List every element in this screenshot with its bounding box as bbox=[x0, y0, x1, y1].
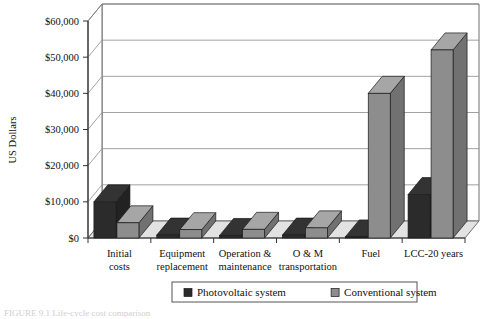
legend-label-1: Conventional system bbox=[344, 286, 437, 298]
figure-caption-partial: FIGURE 9.1 Life-cycle cost comparison bbox=[4, 309, 174, 317]
bar-front-face bbox=[180, 230, 202, 238]
bar-front-face bbox=[305, 228, 327, 238]
bar-front-face bbox=[157, 235, 179, 238]
bar-front-face bbox=[431, 50, 453, 238]
y-tick-label: $20,000 bbox=[45, 160, 79, 171]
bar-front-face bbox=[345, 237, 367, 238]
bar-front-face bbox=[94, 202, 116, 238]
bar-front-face bbox=[220, 235, 242, 238]
bar-conventional-4 bbox=[368, 76, 404, 238]
x-category-label-3: O & M bbox=[293, 248, 324, 259]
x-category-label-1: Equipment bbox=[159, 248, 205, 259]
bar-front-face bbox=[243, 229, 265, 238]
x-category-label-2-0: costs bbox=[109, 261, 130, 272]
y-tick-label: $0 bbox=[69, 233, 80, 244]
bar-side-face bbox=[453, 33, 467, 238]
y-tick-label: $30,000 bbox=[45, 124, 79, 135]
y-tick-label: $60,000 bbox=[45, 16, 79, 27]
bar-conventional-5 bbox=[431, 33, 467, 238]
chart-canvas: $0$10,000$20,000$30,000$40,000$50,000$60… bbox=[0, 0, 496, 319]
bar-front-face bbox=[368, 93, 390, 238]
x-category-label-2-3: transportation bbox=[279, 261, 338, 272]
y-tick-label: $40,000 bbox=[45, 88, 79, 99]
legend-swatch-1 bbox=[331, 289, 339, 297]
x-category-label-2-2: maintenance bbox=[219, 261, 272, 272]
x-category-label-5: LCC-20 years bbox=[404, 248, 463, 259]
x-category-label-4: Fuel bbox=[361, 248, 380, 259]
bar-front-face bbox=[408, 195, 430, 238]
legend-swatch-0 bbox=[184, 289, 192, 297]
bar-chart: $0$10,000$20,000$30,000$40,000$50,000$60… bbox=[0, 0, 496, 319]
y-tick-label: $10,000 bbox=[45, 196, 79, 207]
y-tick-label: $50,000 bbox=[45, 52, 79, 63]
x-category-label-2-1: replacement bbox=[157, 261, 208, 272]
bar-front-face bbox=[117, 223, 139, 238]
bar-front-face bbox=[282, 235, 304, 238]
legend-label-0: Photovoltaic system bbox=[197, 286, 286, 298]
x-category-label-0: Initial bbox=[107, 248, 132, 259]
x-category-label-2: Operation & bbox=[219, 248, 272, 259]
y-axis-title: US Dollars bbox=[7, 117, 18, 164]
bar-side-face bbox=[390, 76, 404, 238]
